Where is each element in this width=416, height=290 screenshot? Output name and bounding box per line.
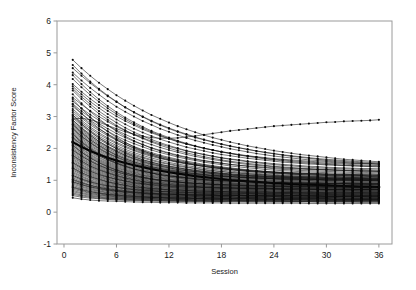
data-point-marker <box>133 143 135 145</box>
data-point-marker <box>264 157 266 159</box>
data-point-marker <box>80 172 82 174</box>
data-point-marker <box>72 83 74 85</box>
data-point-marker <box>212 186 214 188</box>
data-point-marker <box>142 187 144 189</box>
data-point-marker <box>133 105 135 107</box>
data-point-marker <box>343 186 345 188</box>
data-point-marker <box>238 184 240 186</box>
data-point-marker <box>185 202 187 204</box>
data-point-marker <box>325 192 327 194</box>
data-point-marker <box>150 190 152 192</box>
data-point-marker <box>89 175 91 177</box>
data-point-marker <box>72 89 74 91</box>
data-point-marker <box>264 176 266 178</box>
data-point-marker <box>185 136 187 138</box>
data-point-marker <box>255 152 257 154</box>
data-point-marker <box>282 172 284 174</box>
data-point-marker <box>115 132 117 134</box>
data-point-marker <box>220 162 222 164</box>
data-point-marker <box>89 160 91 162</box>
data-point-marker <box>168 191 170 193</box>
data-point-marker <box>299 123 301 125</box>
data-point-marker <box>72 195 74 197</box>
data-point-marker <box>89 130 91 132</box>
data-point-marker <box>168 180 170 182</box>
data-point-marker <box>334 159 336 161</box>
data-point-marker <box>133 179 135 181</box>
data-point-marker <box>194 171 196 173</box>
data-point-marker <box>220 179 222 181</box>
data-point-marker <box>89 142 91 144</box>
data-point-marker <box>72 144 74 146</box>
data-point-marker <box>115 139 117 141</box>
data-point-marker <box>124 135 126 137</box>
data-point-marker <box>194 178 196 180</box>
data-point-marker <box>229 176 231 178</box>
data-point-marker <box>325 177 327 179</box>
data-point-marker <box>107 113 109 115</box>
data-point-marker <box>360 167 362 169</box>
data-point-marker <box>133 133 135 135</box>
data-point-marker <box>115 113 117 115</box>
data-point-marker <box>124 201 126 203</box>
data-point-marker <box>273 202 275 204</box>
data-point-marker <box>290 191 292 193</box>
data-point-marker <box>159 118 161 120</box>
data-point-marker <box>107 133 109 135</box>
data-point-marker <box>229 184 231 186</box>
data-point-marker <box>360 174 362 176</box>
data-point-marker <box>98 186 100 188</box>
data-point-marker <box>107 150 109 152</box>
data-point-marker <box>124 131 126 133</box>
data-point-marker <box>360 188 362 190</box>
data-point-marker <box>80 108 82 110</box>
data-point-marker <box>89 80 91 82</box>
data-point-marker <box>273 167 275 169</box>
data-point-marker <box>98 101 100 103</box>
data-point-marker <box>107 181 109 183</box>
data-point-marker <box>72 112 74 114</box>
data-point-marker <box>115 189 117 191</box>
data-point-marker <box>72 93 74 95</box>
data-point-marker <box>80 93 82 95</box>
data-point-marker <box>290 155 292 157</box>
data-point-marker <box>80 160 82 162</box>
data-point-marker <box>273 163 275 165</box>
data-point-marker <box>80 189 82 191</box>
data-point-marker <box>273 125 275 127</box>
data-point-marker <box>159 143 161 145</box>
data-point-marker <box>115 106 117 108</box>
data-point-marker <box>185 128 187 130</box>
data-point-marker <box>150 184 152 186</box>
data-point-marker <box>98 104 100 106</box>
data-point-marker <box>72 179 74 181</box>
data-point-marker <box>378 162 380 164</box>
data-point-marker <box>308 160 310 162</box>
data-point-marker <box>360 195 362 197</box>
data-point-marker <box>159 183 161 185</box>
data-point-marker <box>343 188 345 190</box>
data-point-marker <box>282 158 284 160</box>
data-point-marker <box>378 195 380 197</box>
data-point-marker <box>80 73 82 75</box>
data-point-marker <box>203 178 205 180</box>
data-point-marker <box>98 162 100 164</box>
data-point-marker <box>107 152 109 154</box>
data-point-marker <box>220 143 222 145</box>
data-point-marker <box>80 80 82 82</box>
data-point-marker <box>264 195 266 197</box>
data-point-marker <box>142 181 144 183</box>
data-point-marker <box>80 119 82 121</box>
data-point-marker <box>159 165 161 167</box>
data-point-marker <box>325 186 327 188</box>
data-point-marker <box>72 98 74 100</box>
data-point-marker <box>150 201 152 203</box>
data-point-marker <box>107 130 109 132</box>
data-point-marker <box>168 141 170 143</box>
data-point-marker <box>142 135 144 137</box>
data-point-marker <box>124 111 126 113</box>
data-point-marker <box>290 152 292 154</box>
data-point-marker <box>194 152 196 154</box>
data-point-marker <box>247 165 249 167</box>
data-point-marker <box>80 117 82 119</box>
